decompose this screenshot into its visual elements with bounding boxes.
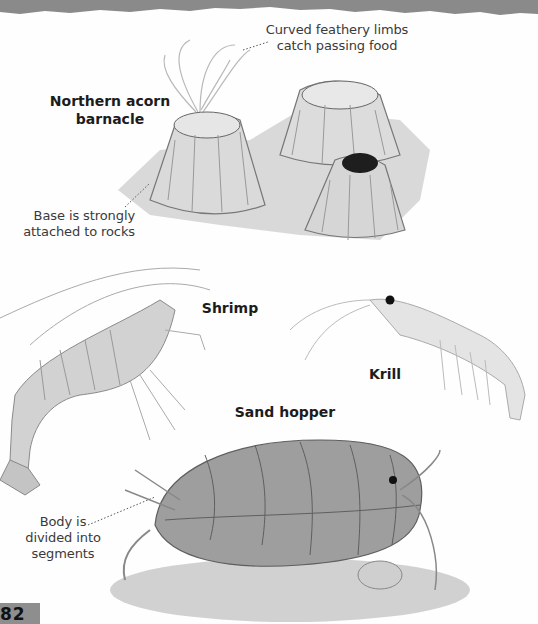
annotation-body-segments: Body is divided into segments	[18, 514, 108, 562]
krill-title: Krill	[360, 365, 410, 383]
page-number-tab: 82	[0, 603, 40, 624]
annotation-line: Body is	[18, 514, 108, 530]
sand-illustration	[110, 558, 470, 622]
barnacle-right-illustration	[280, 81, 400, 165]
sand-hopper-title: Sand hopper	[230, 403, 340, 421]
annotation-feathery-limbs: Curved feathery limbs catch passing food	[262, 22, 412, 54]
title-line: Northern acorn	[20, 92, 200, 110]
annotation-line: Base is strongly	[0, 208, 135, 224]
page-number: 82	[0, 604, 26, 624]
annotation-line: segments	[18, 546, 108, 562]
shrimp-title: Shrimp	[200, 299, 260, 317]
annotation-line: Curved feathery limbs	[262, 22, 412, 38]
krill-illustration	[290, 296, 525, 421]
annotation-base-attached: Base is strongly attached to rocks	[0, 208, 135, 240]
barnacle-title: Northern acorn barnacle	[20, 92, 200, 128]
annotation-line: attached to rocks	[0, 224, 135, 240]
annotation-line: catch passing food	[262, 38, 412, 54]
shrimp-illustration	[0, 268, 210, 495]
title-line: barnacle	[20, 110, 200, 128]
annotation-line: divided into	[18, 530, 108, 546]
